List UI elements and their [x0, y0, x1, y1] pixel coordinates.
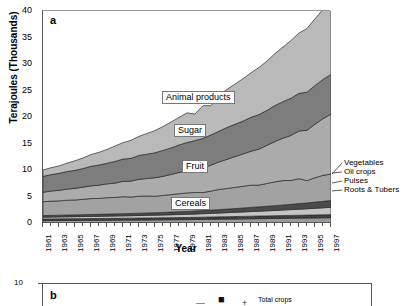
y-tick-label: 5: [27, 191, 32, 200]
side-leader-labels: Vegetables Oil crops Pulses Roots & Tube…: [334, 160, 406, 208]
x-tick-mark: [234, 223, 235, 227]
y-tick-label: 40: [22, 6, 32, 15]
x-tick-mark: [290, 223, 291, 226]
x-tick-mark: [330, 223, 331, 227]
x-tick-mark: [186, 223, 187, 227]
y-axis-tick-labels: 0510152025303540: [0, 10, 38, 222]
stacked-area-chart: [43, 11, 331, 223]
x-tick-mark: [154, 223, 155, 227]
x-tick-mark: [218, 223, 219, 227]
legend-label-total-crops: Total crops: [258, 296, 292, 304]
callout-fruit: Fruit: [182, 160, 208, 173]
side-label-roots-tubers: Roots & Tubers: [344, 185, 399, 194]
panel-a: Terajoules (Thousands) 0510152025303540 …: [0, 0, 406, 258]
x-tick-mark: [242, 223, 243, 226]
x-tick-mark: [82, 223, 83, 226]
panel-b-y-tick: 10: [14, 279, 23, 287]
y-tick-label: 10: [22, 165, 32, 174]
x-tick-mark: [74, 223, 75, 227]
x-tick-mark: [282, 223, 283, 227]
figure-container: Terajoules (Thousands) 0510152025303540 …: [0, 0, 406, 306]
legend-marker-1: —: [196, 299, 205, 306]
x-tick-mark: [194, 223, 195, 226]
x-tick-mark: [298, 223, 299, 227]
x-tick-mark: [322, 223, 323, 226]
x-tick-mark: [170, 223, 171, 227]
x-tick-mark: [306, 223, 307, 226]
y-tick-label: 35: [22, 32, 32, 41]
x-tick-mark: [90, 223, 91, 227]
x-tick-mark: [58, 223, 59, 227]
x-tick-mark: [162, 223, 163, 226]
y-tick-label: 0: [27, 218, 32, 227]
legend-marker-3: +: [242, 299, 247, 306]
side-label-pulses: Pulses: [344, 176, 368, 185]
panel-b: 10 b — ■ + Total crops: [0, 258, 406, 306]
x-tick-mark: [146, 223, 147, 226]
leader-lines: [332, 160, 344, 208]
x-axis-title: Year: [0, 243, 372, 254]
callout-animal-products: Animal products: [162, 91, 235, 104]
panel-b-letter: b: [50, 289, 57, 301]
x-tick-mark: [266, 223, 267, 227]
side-label-vegetables: Vegetables: [344, 158, 384, 167]
x-tick-mark: [202, 223, 203, 227]
x-tick-mark: [178, 223, 179, 226]
y-tick-label: 30: [22, 59, 32, 68]
panel-a-letter: a: [50, 14, 56, 26]
callout-cereals: Cereals: [171, 197, 210, 210]
x-tick-mark: [42, 223, 43, 227]
plot-area-b: [42, 283, 372, 306]
x-tick-mark: [138, 223, 139, 227]
side-label-oil-crops: Oil crops: [344, 167, 376, 176]
x-tick-mark: [130, 223, 131, 226]
x-tick-mark: [50, 223, 51, 226]
x-tick-mark: [114, 223, 115, 226]
x-tick-mark: [274, 223, 275, 226]
x-tick-mark: [210, 223, 211, 226]
x-tick-mark: [106, 223, 107, 227]
x-tick-mark: [66, 223, 67, 226]
x-tick-mark: [258, 223, 259, 226]
x-tick-mark: [122, 223, 123, 227]
y-tick-label: 20: [22, 112, 32, 121]
callout-sugar: Sugar: [174, 124, 206, 137]
y-tick-label: 25: [22, 85, 32, 94]
x-tick-mark: [314, 223, 315, 227]
x-tick-mark: [226, 223, 227, 226]
legend-marker-2: ■: [218, 295, 225, 304]
y-tick-label: 15: [22, 138, 32, 147]
x-tick-mark: [98, 223, 99, 226]
x-tick-mark: [250, 223, 251, 227]
plot-area-a: Animal products Sugar Fruit Cereals: [42, 10, 330, 222]
